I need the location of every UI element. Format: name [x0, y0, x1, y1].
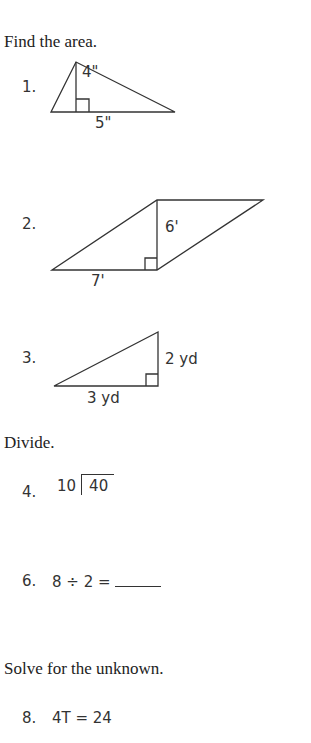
height-label-2: 6'	[165, 218, 179, 236]
long-division-4: 1040	[57, 474, 114, 495]
problem-number-6: 6.	[22, 572, 36, 590]
answer-blank[interactable]	[115, 572, 161, 587]
geometry-figures	[0, 0, 311, 743]
base-label-2: 7'	[91, 272, 105, 290]
base-label-3: 3 yd	[87, 389, 120, 407]
divisor: 10	[57, 477, 76, 495]
height-label-1: 4"	[82, 63, 98, 81]
problem-number-3: 3.	[22, 349, 36, 367]
expression-6: 8 ÷ 2 =	[52, 572, 161, 591]
base-label-1: 5"	[95, 114, 111, 132]
parallelogram-figure-2	[52, 200, 263, 270]
problem-number-2: 2.	[22, 215, 36, 233]
height-label-3: 2 yd	[165, 350, 198, 368]
problem-number-8: 8.	[22, 709, 36, 727]
dividend: 40	[81, 474, 114, 495]
problem-number-1: 1.	[22, 78, 36, 96]
section-heading-solve: Solve for the unknown.	[4, 659, 164, 679]
division-expression: 8 ÷ 2 =	[52, 573, 111, 591]
section-heading-divide: Divide.	[4, 433, 55, 453]
equation-8: 4T = 24	[52, 709, 112, 727]
problem-number-4: 4.	[22, 483, 36, 501]
triangle-figure-1	[51, 62, 175, 112]
right-triangle-figure-3	[54, 332, 158, 386]
